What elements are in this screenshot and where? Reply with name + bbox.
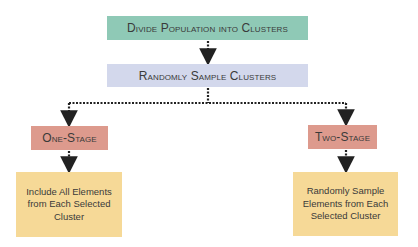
two-stage-label: Two-Stage — [315, 130, 370, 144]
two-stage-note-box: Randomly Sample Elements from Each Selec… — [293, 172, 398, 236]
randomly-sample-clusters-label: Randomly Sample Clusters — [139, 69, 276, 83]
divide-population-box: Divide Population into Clusters — [107, 16, 308, 40]
one-stage-box: One-Stage — [31, 126, 108, 150]
divide-population-label: Divide Population into Clusters — [127, 21, 288, 35]
two-stage-note-text: Randomly Sample Elements from Each Selec… — [297, 185, 394, 223]
randomly-sample-clusters-box: Randomly Sample Clusters — [107, 64, 308, 87]
one-stage-note-text: Include All Elements from Each Selected … — [20, 186, 118, 224]
one-stage-label: One-Stage — [42, 131, 97, 145]
one-stage-note-box: Include All Elements from Each Selected … — [16, 172, 122, 237]
two-stage-box: Two-Stage — [308, 125, 377, 149]
